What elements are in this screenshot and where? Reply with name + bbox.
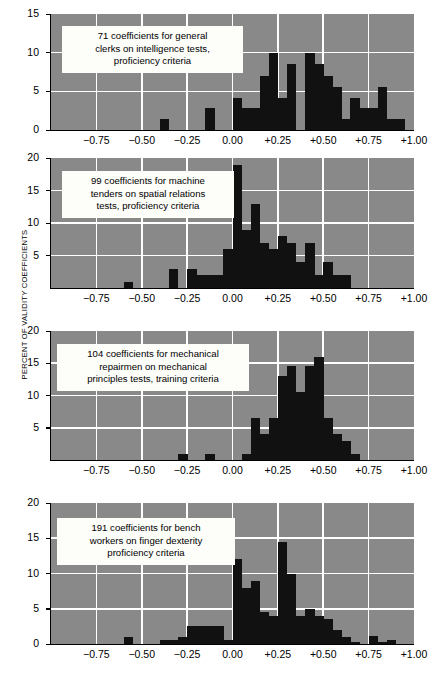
- histogram-bar: [296, 392, 305, 460]
- x-axis-tick-label: +0.25: [252, 293, 304, 304]
- histogram-bar: [242, 108, 251, 130]
- histogram-bar: [323, 262, 332, 288]
- histogram-bar: [287, 64, 296, 130]
- histogram-bar: [332, 87, 341, 130]
- x-axis-tick-label: −0.50: [116, 135, 168, 146]
- histogram-bar: [378, 87, 387, 130]
- histogram-bar: [323, 76, 332, 130]
- y-axis-tick-label: 0: [13, 638, 39, 649]
- histogram-bar: [287, 574, 296, 645]
- histogram-bar: [169, 269, 178, 289]
- histogram-bar: [214, 626, 223, 644]
- histogram-bar: [251, 108, 260, 130]
- histogram-bar: [187, 269, 196, 289]
- histogram-bar: [350, 98, 359, 130]
- histogram-bar: [205, 626, 214, 644]
- histogram-bar: [305, 243, 314, 289]
- y-axis-tick-label: 5: [13, 85, 39, 96]
- histogram-bar: [332, 275, 341, 288]
- histogram-bar: [269, 616, 278, 644]
- histogram-bar: [314, 64, 323, 130]
- x-axis-tick-label: +1.00: [388, 293, 440, 304]
- histogram-bar: [160, 119, 169, 130]
- histogram-bar: [314, 357, 323, 460]
- histogram-bar: [323, 619, 332, 644]
- histogram-bar: [269, 418, 278, 460]
- x-axis-tick-label: +0.50: [297, 649, 349, 660]
- panel-3-callout: 104 coefficients for mechanical repairme…: [57, 344, 249, 391]
- x-axis-tick-label: −0.75: [70, 135, 122, 146]
- x-axis-tick-label: −0.75: [70, 649, 122, 660]
- x-axis-tick-label: +0.50: [297, 135, 349, 146]
- histogram-bar: [360, 108, 369, 130]
- histogram-bar: [278, 236, 287, 288]
- histogram-bar: [278, 542, 287, 644]
- y-axis-tick-label: 15: [13, 185, 39, 196]
- x-axis-tick-label: −0.50: [116, 649, 168, 660]
- histogram-bar: [323, 418, 332, 460]
- x-axis-tick-label: +0.75: [343, 135, 395, 146]
- y-axis-tick-label: 15: [13, 8, 39, 19]
- x-axis-tick-label: +1.00: [388, 135, 440, 146]
- validity-coefficient-histograms-figure: PERCENT OF VALIDITY COEFFICIENTS 71 coef…: [0, 0, 443, 690]
- histogram-bar: [178, 637, 187, 644]
- y-axis-tick-label: 20: [13, 152, 39, 163]
- x-axis-tick-label: 0.00: [207, 135, 259, 146]
- histogram-bar: [251, 204, 260, 289]
- y-axis-tick: [46, 14, 51, 15]
- histogram-bar: [260, 243, 269, 289]
- x-axis-tick-label: −0.50: [116, 465, 168, 476]
- y-axis-tick: [46, 608, 51, 609]
- y-axis-tick-label: 20: [13, 497, 39, 508]
- x-axis-tick-label: +0.50: [297, 465, 349, 476]
- y-axis-tick: [46, 158, 51, 159]
- y-axis-tick: [46, 52, 51, 53]
- x-axis-tick-label: 0.00: [207, 649, 259, 660]
- histogram-bar: [341, 637, 350, 644]
- y-axis-tick: [46, 363, 51, 364]
- histogram-bar: [314, 275, 323, 288]
- y-axis-tick-label: 10: [13, 217, 39, 228]
- y-axis-tick-label: 10: [13, 47, 39, 58]
- x-axis-tick-label: −0.25: [161, 649, 213, 660]
- x-axis-line: [50, 644, 414, 645]
- histogram-bar: [251, 418, 260, 460]
- histogram-bar: [296, 262, 305, 288]
- y-axis-tick-label: 15: [13, 357, 39, 368]
- gridline-horizontal: [51, 91, 414, 93]
- histogram-bar: [341, 441, 350, 460]
- histogram-bar: [305, 366, 314, 460]
- histogram-bar: [233, 559, 242, 644]
- y-axis-tick-label: 5: [13, 603, 39, 614]
- y-axis-tick: [46, 331, 51, 332]
- histogram-bar: [341, 275, 350, 288]
- y-axis-tick: [46, 503, 51, 504]
- panel-4-callout: 191 coefficients for bench workers on fi…: [57, 518, 235, 565]
- gridline-horizontal: [51, 395, 414, 397]
- histogram-bar: [214, 275, 223, 288]
- x-axis-tick-label: −0.50: [116, 293, 168, 304]
- x-axis-line: [50, 460, 414, 461]
- histogram-bar: [233, 98, 242, 130]
- histogram-bar: [278, 98, 287, 130]
- histogram-bar: [369, 636, 378, 644]
- histogram-bar: [387, 119, 396, 130]
- histogram-bar: [124, 637, 133, 644]
- x-axis-tick-label: −0.75: [70, 293, 122, 304]
- y-axis-tick: [46, 538, 51, 539]
- panel-1-callout: 71 coefficients for general clerks on in…: [62, 26, 243, 73]
- x-axis-tick-label: +0.50: [297, 293, 349, 304]
- x-axis-tick-label: 0.00: [207, 465, 259, 476]
- histogram-bar: [369, 108, 378, 130]
- y-axis-tick: [46, 255, 51, 256]
- histogram-bar: [396, 119, 405, 130]
- histogram-bar: [260, 434, 269, 460]
- y-axis-tick-label: 0: [13, 124, 39, 135]
- y-axis-line: [50, 14, 51, 130]
- histogram-bar: [260, 612, 269, 644]
- y-axis-tick: [46, 223, 51, 224]
- y-axis-tick-label: 5: [13, 422, 39, 433]
- histogram-bar: [196, 275, 205, 288]
- x-axis-line: [50, 130, 414, 131]
- y-axis-tick-label: 20: [13, 325, 39, 336]
